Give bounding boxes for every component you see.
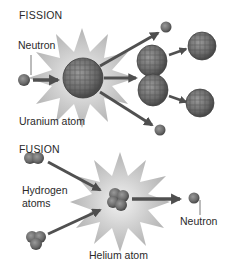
fission-title: FISSION [19, 9, 62, 21]
fission-fusion-diagram: FISSION Neutron Uranium atom FUSION Hydr… [0, 0, 234, 270]
fusion-neutron-label: Neutron [180, 215, 217, 227]
fragment-arrow-bottom [169, 96, 186, 102]
fusion-neutron [189, 193, 200, 204]
fission-product-bottom [186, 89, 214, 117]
fusion-title: FUSION [19, 143, 60, 155]
helium-atom-label: Helium atom [89, 249, 148, 261]
hydrogen-label-line1: Hydrogen [22, 184, 68, 196]
incoming-neutron [18, 74, 30, 86]
released-neutron-top [161, 22, 172, 33]
fission-product-top [188, 32, 216, 60]
fission-fragment-pair [137, 45, 168, 106]
hydrogen-label-line2: atoms [22, 197, 51, 209]
fission-neutron-label: Neutron [18, 39, 55, 51]
fragment-arrow-top [169, 49, 186, 55]
uranium-nucleus [63, 58, 103, 98]
uranium-atom-label: Uranium atom [19, 115, 85, 127]
hydrogen-atom-triple [26, 231, 46, 250]
released-neutron-bottom [155, 125, 166, 136]
